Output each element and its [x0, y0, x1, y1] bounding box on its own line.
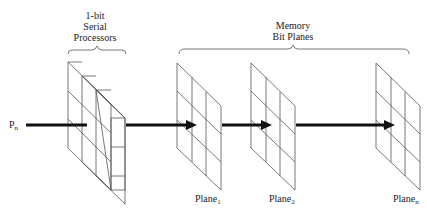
processors-label: 1-bit Serial Processors: [70, 10, 120, 43]
plane2-label: Plane2: [269, 193, 295, 208]
plane1-sub: 1: [217, 198, 221, 206]
plane2-sub: 2: [291, 198, 295, 206]
memory-label-line2: Bit Planes: [263, 31, 323, 42]
processors-label-line3: Processors: [70, 32, 120, 43]
plane1-text: Plane: [195, 193, 217, 204]
planen-label: Planen: [393, 193, 419, 208]
processors-brace: [68, 46, 126, 54]
plane1-label: Plane1: [195, 193, 221, 208]
plane2-text: Plane: [269, 193, 291, 204]
input-label: Pn: [9, 119, 18, 134]
bit-plane-diagram: [0, 0, 427, 214]
memory-label: Memory Bit Planes: [263, 20, 323, 42]
memory-label-line1: Memory: [263, 20, 323, 31]
processors-label-line1: 1-bit: [70, 10, 120, 21]
processor-block: [68, 62, 125, 204]
input-label-sub: n: [15, 124, 19, 132]
memory-brace: [179, 45, 409, 54]
planen-text: Plane: [393, 193, 415, 204]
processors-label-line2: Serial: [70, 21, 120, 32]
planen-sub: n: [415, 198, 419, 206]
